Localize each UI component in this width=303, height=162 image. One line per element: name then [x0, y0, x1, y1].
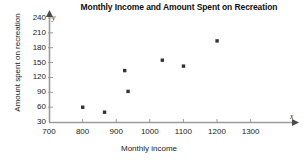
- data-point: [161, 58, 164, 61]
- data-point: [103, 110, 106, 113]
- x-axis-arrow: [292, 119, 299, 126]
- chart-canvas: [0, 0, 303, 162]
- y-axis-arrow: [46, 10, 53, 17]
- data-point: [81, 106, 84, 109]
- data-point: [126, 90, 129, 93]
- data-point: [215, 39, 218, 42]
- data-point: [182, 64, 185, 67]
- data-point: [123, 69, 126, 72]
- data-points: [81, 39, 219, 114]
- scatter-chart: Monthly Income and Amount Spent on Recre…: [0, 0, 303, 162]
